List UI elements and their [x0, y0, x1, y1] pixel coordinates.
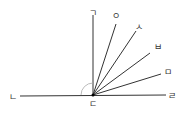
- ray-m: [93, 74, 161, 95]
- angle-diagram: ㄱ ㅇ ㅅ ㅂ ㅁ ㄹ ㄴ ㄷ: [0, 0, 186, 113]
- label-r: ㄹ: [168, 91, 176, 101]
- ray-s: [93, 31, 136, 95]
- label-n: ㄴ: [9, 92, 17, 102]
- label-g: ㄱ: [89, 8, 97, 18]
- angle-arc: [81, 83, 93, 95]
- rays: [20, 15, 166, 96]
- label-s: ㅅ: [135, 22, 143, 32]
- ray-o: [93, 24, 116, 95]
- vertex-point: [92, 94, 95, 97]
- label-m: ㅁ: [164, 67, 172, 77]
- ray-b: [93, 53, 150, 95]
- label-o: ㅇ: [112, 11, 120, 21]
- label-b: ㅂ: [154, 42, 162, 52]
- label-d: ㄷ: [89, 99, 97, 109]
